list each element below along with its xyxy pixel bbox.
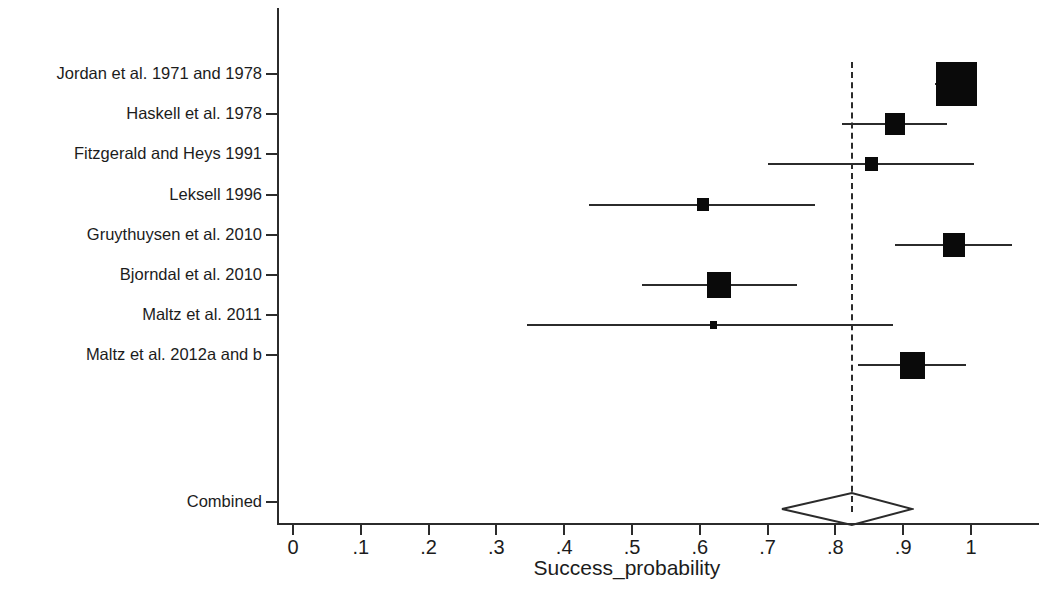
x-axis-tick [970,524,972,535]
x-axis-tick [292,524,294,535]
x-axis-tick-label: 0 [263,537,323,557]
study-label: Maltz et al. 2012a and b [12,346,262,363]
x-axis-tick [360,524,362,535]
x-axis-tick [495,524,497,535]
x-axis-tick-label: .8 [805,537,865,557]
x-axis-tick [631,524,633,535]
effect-estimate-box [936,62,977,106]
x-axis-tick [428,524,430,535]
study-label: Jordan et al. 1971 and 1978 [12,65,262,82]
x-axis-tick-label: 1 [941,537,1001,557]
x-axis-tick [767,524,769,535]
x-axis-tick-label: .4 [534,537,594,557]
x-axis-line [277,523,1039,525]
study-label: Haskell et al. 1978 [12,105,262,122]
study-label: Fitzgerald and Heys 1991 [12,145,262,162]
effect-estimate-box [943,233,965,257]
study-label: Bjorndal et al. 2010 [12,266,262,283]
combined-label: Combined [12,493,262,510]
x-axis-tick [563,524,565,535]
x-axis-tick-label: .2 [399,537,459,557]
study-label: Maltz et al. 2011 [12,306,262,323]
x-axis-tick [902,524,904,535]
effect-estimate-box [865,157,878,171]
study-label: Leksell 1996 [12,186,262,203]
x-axis-tick-label: .7 [738,537,798,557]
x-axis-tick [834,524,836,535]
x-axis-tick-label: .5 [602,537,662,557]
reference-line [851,62,853,512]
x-axis-tick-label: .3 [466,537,526,557]
effect-estimate-box [697,198,709,211]
effect-estimate-box [900,352,925,379]
study-label: Gruythuysen et al. 2010 [12,226,262,243]
effect-estimate-box [885,113,905,135]
x-axis-tick-label: .1 [331,537,391,557]
x-axis-tick [699,524,701,535]
forest-plot: Jordan et al. 1971 and 1978Haskell et al… [0,0,1041,612]
x-axis-tick-label: .6 [670,537,730,557]
x-axis-tick-label: .9 [873,537,933,557]
x-axis-title: Success_probability [417,557,837,578]
effect-estimate-box [707,272,731,298]
combined-effect-diamond [780,491,914,527]
y-axis-line [277,8,279,524]
effect-estimate-box [710,321,717,329]
